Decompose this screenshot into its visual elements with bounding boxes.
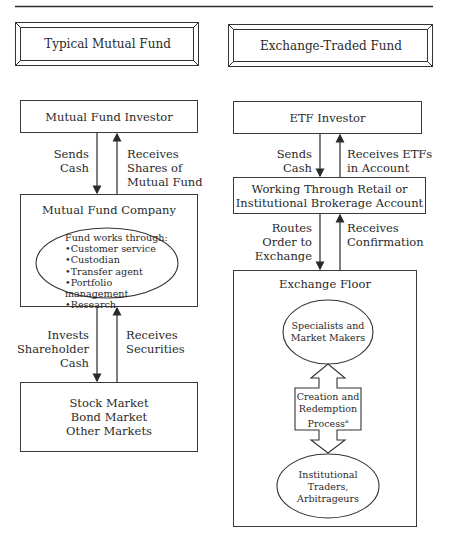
markets-box: Stock Market Bond Market Other Markets bbox=[20, 382, 198, 452]
exchange-floor-label: Exchange Floor bbox=[279, 277, 371, 291]
mf-receives-shares-label: ReceivesShares ofMutual Fund bbox=[127, 147, 217, 189]
mf-sends-cash-label: SendsCash bbox=[40, 147, 89, 175]
list-item: •Research bbox=[65, 299, 175, 310]
header-exchange-traded-fund: Exchange-Traded Fund bbox=[234, 39, 428, 53]
mf-invests-label: InvestsShareholderCash bbox=[15, 328, 89, 370]
institutional-traders-label: InstitutionalTraders,Arbitrageurs bbox=[283, 469, 373, 505]
footnote-marker: a bbox=[345, 417, 349, 424]
creation-redemption-label: Creation andRedemption Processa bbox=[293, 391, 363, 430]
mf-receives-securities-label: ReceivesSecurities bbox=[126, 328, 206, 356]
mutual-fund-company-label: Mutual Fund Company bbox=[42, 203, 176, 217]
brokerage-account-box: Working Through Retail or Institutional … bbox=[233, 177, 426, 214]
mutual-fund-investor-label: Mutual Fund Investor bbox=[45, 110, 172, 124]
etf-investor-label: ETF Investor bbox=[290, 111, 366, 125]
etf-receives-etfs-label: Receives ETFsin Account bbox=[347, 147, 447, 175]
list-item: •Customer service bbox=[65, 243, 175, 254]
header-typical-mutual-fund: Typical Mutual Fund bbox=[21, 37, 194, 51]
list-item: •Portfolio management bbox=[65, 277, 175, 299]
fund-works-through-list: Fund works through: •Customer service •C… bbox=[65, 232, 175, 310]
etf-sends-cash-label: SendsCash bbox=[260, 147, 312, 175]
mutual-fund-investor-box: Mutual Fund Investor bbox=[20, 100, 198, 133]
specialists-market-makers-label: Specialists andMarket Makers bbox=[283, 320, 373, 344]
works-through-title: Fund works through: bbox=[65, 232, 175, 243]
list-item: •Custodian bbox=[65, 254, 175, 265]
list-item: •Transfer agent bbox=[65, 266, 175, 277]
etf-investor-box: ETF Investor bbox=[233, 101, 422, 134]
routes-order-label: RoutesOrder toExchange bbox=[254, 221, 312, 263]
receives-confirmation-label: ReceivesConfirmation bbox=[347, 221, 442, 249]
